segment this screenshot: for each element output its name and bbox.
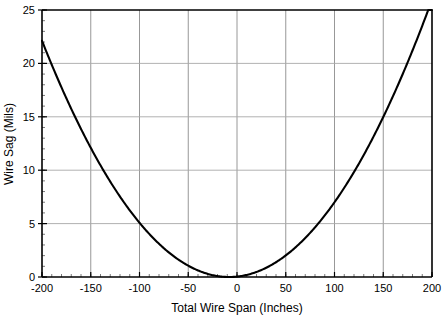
x-tick-label: 100 bbox=[325, 282, 343, 294]
y-tick-label: 10 bbox=[23, 164, 35, 176]
y-tick-label: 0 bbox=[29, 271, 35, 283]
y-tick-label: 15 bbox=[23, 111, 35, 123]
y-tick-label: 25 bbox=[23, 4, 35, 16]
x-tick-label: 200 bbox=[423, 282, 441, 294]
x-tick-label: 0 bbox=[234, 282, 240, 294]
y-axis-title: Wire Sag (Mils) bbox=[2, 103, 16, 185]
y-tick-label: 20 bbox=[23, 57, 35, 69]
x-tick-labels: -200-150-100-50050100150200 bbox=[31, 282, 441, 294]
major-ticks bbox=[38, 10, 432, 277]
x-axis-title: Total Wire Span (Inches) bbox=[171, 301, 302, 315]
y-tick-label: 5 bbox=[29, 218, 35, 230]
chart-container: -200-150-100-50050100150200 0510152025 T… bbox=[0, 0, 448, 318]
x-tick-label: -200 bbox=[31, 282, 53, 294]
y-tick-labels: 0510152025 bbox=[23, 4, 35, 283]
x-tick-label: 50 bbox=[280, 282, 292, 294]
x-tick-label: -150 bbox=[80, 282, 102, 294]
wire-sag-chart: -200-150-100-50050100150200 0510152025 T… bbox=[0, 0, 448, 318]
x-tick-label: 150 bbox=[374, 282, 392, 294]
x-tick-label: -50 bbox=[180, 282, 196, 294]
x-tick-label: -100 bbox=[128, 282, 150, 294]
gridlines bbox=[42, 10, 432, 277]
